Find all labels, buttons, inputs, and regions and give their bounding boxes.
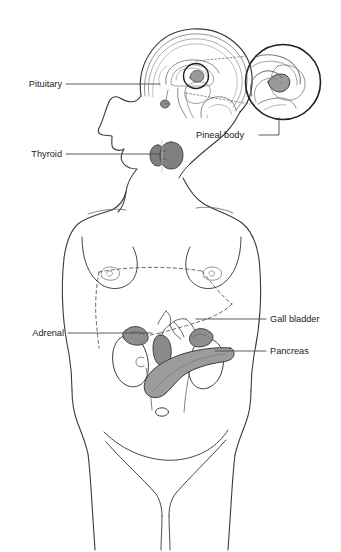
pineal-body-marker [184,64,209,89]
bile-duct-tree [158,311,195,339]
labels-layer: Pituitary Thyroid Adrenal Pineal body Ga… [29,79,320,356]
head-profile [98,29,252,212]
breasts [82,237,241,289]
label-thyroid: Thyroid [31,149,62,159]
groin-line-right [169,440,226,516]
label-pancreas: Pancreas [270,346,309,356]
pituitary-gland [160,100,169,108]
lower-body-details [104,408,228,550]
abdominal-crease [104,430,228,460]
groin-line-left [106,442,162,516]
leader-pineal-body [259,118,279,135]
anatomy-illustration: Pituitary Thyroid Adrenal Pineal body Ga… [0,0,341,552]
label-adrenal: Adrenal [32,328,64,338]
navel [156,408,169,416]
label-gall-bladder: Gall bladder [270,314,320,324]
label-leader-lines [66,84,279,351]
endocrine-diagram: Pituitary Thyroid Adrenal Pineal body Ga… [0,0,341,552]
label-pineal-body: Pineal body [196,130,244,140]
thyroid-gland [150,140,183,172]
label-pituitary: Pituitary [29,79,63,89]
